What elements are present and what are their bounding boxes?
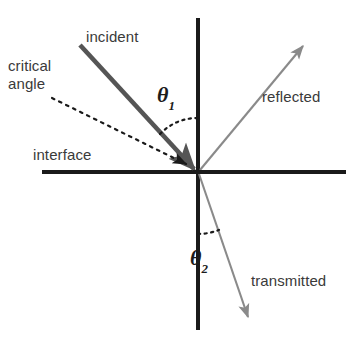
theta2-subscript: 2 bbox=[201, 261, 208, 276]
theta1-subscript: 1 bbox=[168, 98, 175, 113]
interface-label: interface bbox=[33, 146, 91, 164]
optics-diagram: incident critical angle interface reflec… bbox=[0, 0, 353, 344]
reflected-ray bbox=[200, 46, 303, 170]
optics-diagram-canvas bbox=[0, 0, 353, 344]
theta2-symbol: θ bbox=[190, 245, 201, 270]
transmitted-label: transmitted bbox=[251, 272, 326, 290]
theta2-label: θ2 bbox=[190, 245, 208, 274]
critical-angle-label: critical angle bbox=[8, 57, 51, 92]
theta2-arc bbox=[198, 230, 219, 234]
theta1-arc bbox=[160, 118, 198, 134]
theta1-label: θ1 bbox=[157, 82, 175, 111]
critical-angle-label-line2: angle bbox=[8, 75, 51, 93]
theta1-symbol: θ bbox=[157, 82, 168, 107]
reflected-label: reflected bbox=[262, 88, 320, 106]
incident-label: incident bbox=[86, 28, 139, 46]
critical-angle-label-line1: critical bbox=[8, 57, 51, 75]
incident-ray bbox=[80, 45, 194, 169]
